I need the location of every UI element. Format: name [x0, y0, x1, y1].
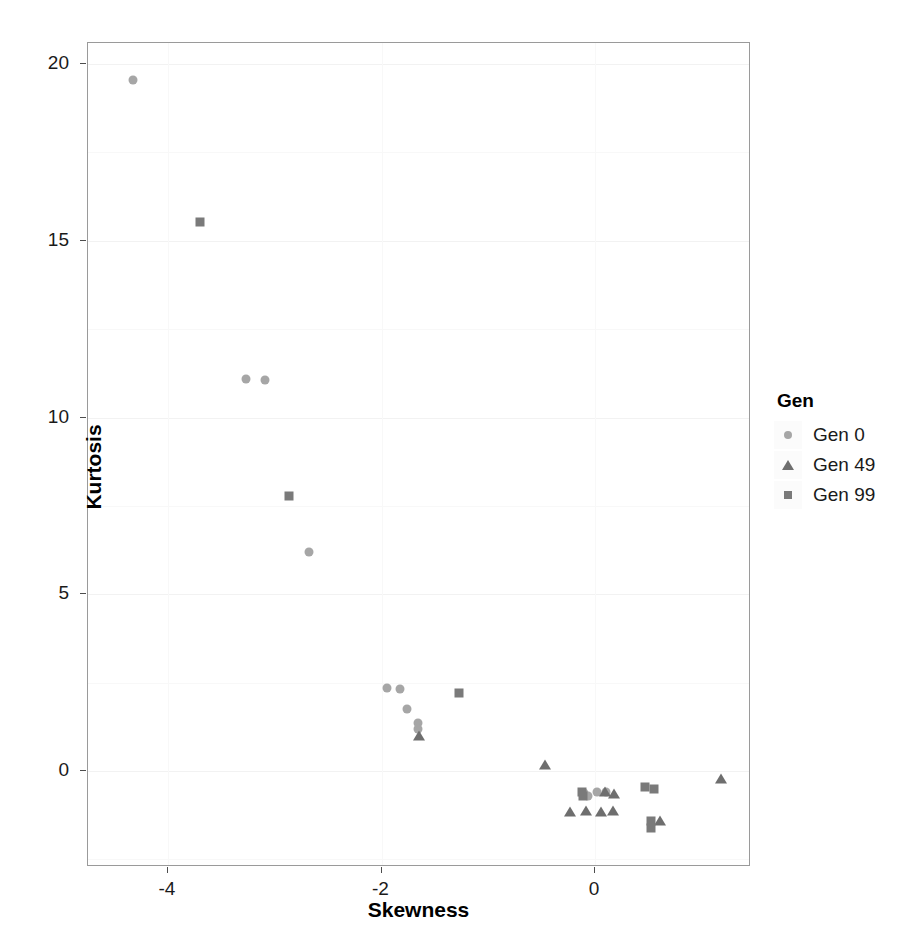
y-axis-label: Kurtosis — [82, 367, 106, 567]
square-marker-icon — [784, 491, 792, 499]
data-point — [403, 705, 412, 714]
gridline — [88, 683, 749, 684]
x-tick-label: -2 — [372, 878, 389, 900]
gridline — [88, 859, 749, 860]
gridline — [168, 43, 169, 865]
circle-marker-icon — [784, 431, 792, 439]
plot-panel — [87, 42, 750, 866]
gridline — [88, 771, 749, 772]
gridline — [595, 43, 596, 865]
y-tick-mark — [80, 770, 86, 771]
x-tick-label: -4 — [159, 878, 176, 900]
legend-key-gen-99 — [774, 481, 802, 509]
legend-title: Gen — [777, 390, 899, 412]
data-point — [241, 374, 250, 383]
x-tick-mark — [594, 867, 595, 873]
x-tick-mark — [381, 867, 382, 873]
data-point — [539, 759, 551, 769]
gridline — [88, 329, 749, 330]
data-point — [395, 684, 404, 693]
data-point — [196, 218, 205, 227]
y-tick-mark — [80, 593, 86, 594]
y-tick-label: 5 — [5, 582, 69, 604]
gridline — [88, 241, 749, 242]
data-point — [607, 805, 619, 815]
x-tick-mark — [167, 867, 168, 873]
data-point — [128, 75, 137, 84]
data-point — [455, 688, 464, 697]
data-point — [413, 730, 425, 740]
legend-label-gen-99: Gen 99 — [813, 484, 875, 506]
legend-key-gen-49 — [774, 451, 802, 479]
data-point — [382, 683, 391, 692]
gridline — [382, 43, 383, 865]
legend-item-gen-0[interactable]: Gen 0 — [774, 420, 899, 450]
gridline — [88, 418, 749, 419]
legend-item-gen-49[interactable]: Gen 49 — [774, 450, 899, 480]
legend-label-gen-0: Gen 0 — [813, 424, 865, 446]
data-point — [284, 491, 293, 500]
gridline — [88, 152, 749, 153]
y-tick-mark — [80, 63, 86, 64]
scatter-plot-figure: 05101520-4-20 Kurtosis Skewness Gen Gen … — [0, 0, 908, 949]
data-point — [595, 806, 607, 816]
data-point — [649, 785, 658, 794]
legend-label-gen-49: Gen 49 — [813, 454, 875, 476]
legend-item-gen-99[interactable]: Gen 99 — [774, 480, 899, 510]
legend: Gen Gen 0 Gen 49 Gen 99 — [774, 390, 899, 510]
data-point — [646, 824, 655, 833]
data-point — [654, 816, 666, 826]
y-tick-label: 20 — [5, 52, 69, 74]
y-tick-label: 0 — [5, 759, 69, 781]
y-tick-label: 10 — [5, 406, 69, 428]
gridline — [88, 64, 749, 65]
gridline — [88, 594, 749, 595]
x-tick-label: 0 — [589, 878, 600, 900]
data-point — [261, 376, 270, 385]
plot-area — [88, 43, 749, 865]
triangle-marker-icon — [782, 460, 794, 470]
data-point — [580, 805, 592, 815]
data-point — [564, 806, 576, 816]
y-tick-label: 15 — [5, 229, 69, 251]
gridline — [88, 506, 749, 507]
legend-key-gen-0 — [774, 421, 802, 449]
data-point — [304, 547, 313, 556]
data-point — [579, 792, 588, 801]
x-axis-label: Skewness — [87, 898, 750, 922]
data-point — [715, 774, 727, 784]
y-tick-mark — [80, 240, 86, 241]
data-point — [608, 788, 620, 798]
